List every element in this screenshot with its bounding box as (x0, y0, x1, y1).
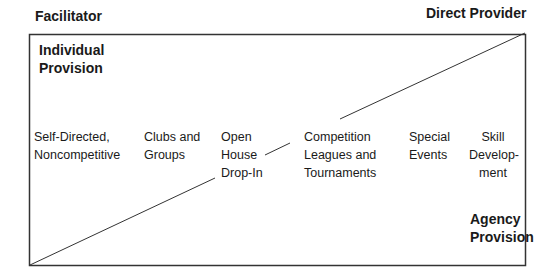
agency-provision-label: Agency Provision (470, 210, 518, 246)
direct-provider-label: Direct Provider (426, 4, 526, 22)
item-open-house: OpenHouseDrop-In (221, 128, 263, 182)
individual-provision-label: Individual Provision (39, 41, 104, 77)
facilitator-label: Facilitator (35, 7, 102, 25)
diagonal-segment-3 (340, 33, 525, 119)
item-skill-development: SkillDevelop-ment (469, 128, 517, 182)
item-self-directed: Self-Directed,Noncompetitive (34, 128, 120, 164)
item-special-events: SpecialEvents (409, 128, 450, 164)
item-clubs-groups: Clubs andGroups (144, 128, 200, 164)
diagonal-segment-1 (30, 178, 215, 265)
diagonal-segment-2 (265, 143, 290, 155)
item-competition: CompetitionLeagues andTournaments (304, 128, 376, 182)
